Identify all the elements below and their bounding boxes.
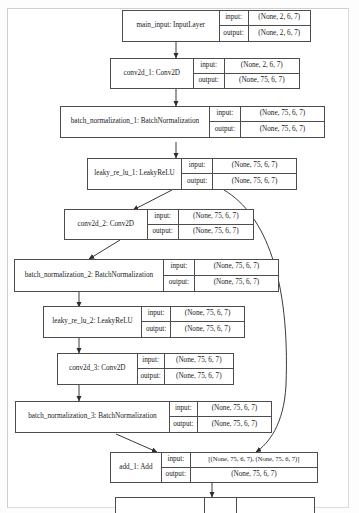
- node-main_input-output-shape: (None, 2, 6, 7): [249, 26, 310, 41]
- node-batch_normalization_1-io: input: (None, 75, 6, 7) output: (None, 7…: [209, 107, 324, 137]
- node-leaky_re_lu_1-io: input: (None, 75, 6, 7) output: (None, 7…: [181, 159, 296, 189]
- input-label: input:: [162, 453, 191, 467]
- output-label: output:: [162, 468, 191, 483]
- node-conv2d_3[interactable]: conv2d_3: Conv2D input: (None, 75, 6, 7)…: [57, 353, 234, 385]
- node-batch_normalization_3-input-shape: (None, 75, 6, 7): [198, 402, 271, 416]
- output-label: output:: [210, 122, 241, 137]
- node-main_input[interactable]: main_input: InputLayer input: (None, 2, …: [122, 10, 311, 42]
- output-label: output:: [194, 74, 225, 89]
- edge-batch_normalization_3-add_1: [116, 434, 157, 452]
- diagram-page: main_input: InputLayer input: (None, 2, …: [0, 0, 359, 513]
- input-label: input:: [210, 107, 241, 121]
- node-batch_normalization_3-io: input: (None, 75, 6, 7) output: (None, 7…: [169, 402, 271, 432]
- node-conv2d_2[interactable]: conv2d_2: Conv2D input: (None, 75, 6, 7)…: [64, 209, 254, 240]
- node-next-clipped[interactable]: [115, 497, 315, 513]
- node-conv2d_1-input-shape: (None, 2, 6, 7): [225, 59, 299, 73]
- input-label: input:: [170, 402, 198, 416]
- node-batch_normalization_1-output-shape: (None, 75, 6, 7): [241, 122, 324, 137]
- node-batch_normalization_3-label: batch_normalization_3: BatchNormalizatio…: [16, 402, 169, 432]
- input-label: input:: [182, 159, 213, 173]
- node-add_1-io: input: [(None, 75, 6, 7), (None, 75, 6, …: [161, 453, 317, 482]
- node-next-clipped-input-shape: [237, 498, 314, 513]
- node-leaky_re_lu_1-output-shape: (None, 75, 6, 7): [213, 174, 296, 189]
- node-conv2d_1-io: input: (None, 2, 6, 7) output: (None, 75…: [193, 59, 299, 88]
- output-label: output:: [220, 26, 249, 41]
- node-conv2d_3-io: input: (None, 75, 6, 7) output: (None, 7…: [137, 354, 233, 384]
- node-main_input-input-shape: (None, 2, 6, 7): [249, 11, 310, 25]
- node-leaky_re_lu_1-input-shape: (None, 75, 6, 7): [213, 159, 296, 173]
- node-next-clipped-label: [116, 498, 204, 513]
- node-conv2d_2-io: input: (None, 75, 6, 7) output: (None, 7…: [147, 210, 253, 239]
- node-add_1-output-shape: (None, 75, 6, 7): [191, 468, 317, 483]
- edge-conv2d_2-batch_normalization_2: [89, 240, 120, 259]
- input-label: input:: [194, 59, 225, 73]
- node-batch_normalization_2-input-shape: (None, 75, 6, 7): [195, 260, 278, 275]
- input-label: input:: [142, 307, 171, 321]
- input-label: input:: [138, 354, 165, 368]
- node-leaky_re_lu_2-output-shape: (None, 75, 6, 7): [171, 322, 244, 337]
- output-label: output:: [182, 174, 213, 189]
- node-conv2d_1-label: conv2d_1: Conv2D: [111, 59, 193, 88]
- node-conv2d_1[interactable]: conv2d_1: Conv2D input: (None, 2, 6, 7) …: [110, 58, 300, 89]
- node-main_input-io: input: (None, 2, 6, 7) output: (None, 2,…: [219, 11, 310, 41]
- node-main_input-label: main_input: InputLayer: [123, 11, 219, 41]
- node-batch_normalization_1-label: batch_normalization_1: BatchNormalizatio…: [61, 107, 209, 137]
- node-conv2d_2-input-shape: (None, 75, 6, 7): [179, 210, 253, 224]
- node-add_1-label: add_1: Add: [111, 453, 161, 482]
- node-conv2d_2-label: conv2d_2: Conv2D: [65, 210, 147, 239]
- node-batch_normalization_2[interactable]: batch_normalization_2: BatchNormalizatio…: [14, 259, 279, 292]
- node-leaky_re_lu_1-label: leaky_re_lu_1: LeakyReLU: [88, 159, 181, 189]
- output-label: output:: [148, 225, 179, 240]
- node-add_1[interactable]: add_1: Add input: [(None, 75, 6, 7), (No…: [110, 452, 318, 483]
- input-label-clipped: [205, 498, 237, 513]
- node-leaky_re_lu_2-input-shape: (None, 75, 6, 7): [171, 307, 244, 321]
- input-label: input:: [148, 210, 179, 224]
- node-conv2d_1-output-shape: (None, 75, 6, 7): [225, 74, 299, 89]
- node-batch_normalization_1-input-shape: (None, 75, 6, 7): [241, 107, 324, 121]
- node-next-clipped-io: [204, 498, 314, 513]
- input-label: input:: [220, 11, 249, 25]
- node-batch_normalization_3[interactable]: batch_normalization_3: BatchNormalizatio…: [15, 401, 272, 433]
- node-leaky_re_lu_2-io: input: (None, 75, 6, 7) output: (None, 7…: [141, 307, 244, 337]
- output-label: output:: [142, 322, 171, 337]
- node-conv2d_3-input-shape: (None, 75, 6, 7): [165, 354, 233, 368]
- node-batch_normalization_2-io: input: (None, 75, 6, 7) output: (None, 7…: [163, 260, 278, 291]
- node-add_1-input-shape: [(None, 75, 6, 7), (None, 75, 6, 7)]: [191, 453, 317, 467]
- node-batch_normalization_2-label: batch_normalization_2: BatchNormalizatio…: [15, 260, 163, 291]
- node-conv2d_3-output-shape: (None, 75, 6, 7): [165, 369, 233, 384]
- input-label: input:: [164, 260, 195, 275]
- output-label: output:: [170, 417, 198, 432]
- edge-leaky_re_lu_1-conv2d_2: [133, 190, 172, 210]
- node-conv2d_2-output-shape: (None, 75, 6, 7): [179, 225, 253, 240]
- node-batch_normalization_2-output-shape: (None, 75, 6, 7): [195, 276, 278, 292]
- node-batch_normalization_1[interactable]: batch_normalization_1: BatchNormalizatio…: [60, 106, 325, 138]
- output-label: output:: [164, 276, 195, 292]
- node-leaky_re_lu_2[interactable]: leaky_re_lu_2: LeakyReLU input: (None, 7…: [43, 306, 245, 338]
- node-leaky_re_lu_2-label: leaky_re_lu_2: LeakyReLU: [44, 307, 141, 337]
- node-conv2d_3-label: conv2d_3: Conv2D: [58, 354, 137, 384]
- node-leaky_re_lu_1[interactable]: leaky_re_lu_1: LeakyReLU input: (None, 7…: [87, 158, 297, 190]
- node-batch_normalization_3-output-shape: (None, 75, 6, 7): [198, 417, 271, 432]
- output-label: output:: [138, 369, 165, 384]
